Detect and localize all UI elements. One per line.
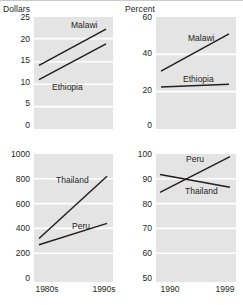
y-tick-label: 90 bbox=[143, 175, 152, 184]
chart-panel-bottom-right: 100 90 80 70 60 50 Peru bbox=[121, 152, 243, 305]
chart-panel-bottom-left: 1000 800 600 400 200 0 Th bbox=[0, 152, 120, 305]
line-chart-bottom-right bbox=[156, 154, 236, 282]
y-tick-label: 800 bbox=[16, 175, 30, 184]
x-tick-label: 1999 bbox=[216, 284, 235, 294]
chart-panel-top-right: Percent 60 40 20 0 Malawi bbox=[121, 4, 243, 150]
y-tick-label: 0 bbox=[25, 274, 30, 283]
plot-wrapper-top-left: 25 20 15 10 5 0 bbox=[0, 17, 120, 129]
y-tick-label: 200 bbox=[16, 249, 30, 258]
y-tick-label: 0 bbox=[147, 121, 152, 130]
plot-wrapper-bottom-left: 1000 800 600 400 200 0 Th bbox=[0, 154, 120, 282]
y-axis-top-right: 60 40 20 0 bbox=[121, 17, 152, 129]
y-tick-label: 20 bbox=[143, 86, 152, 95]
chart-panel-top-left: Dollars 25 20 15 10 5 0 bbox=[0, 4, 120, 150]
y-tick-label: 40 bbox=[143, 49, 152, 58]
x-axis-bottom-left: 1980s 1990s bbox=[34, 284, 113, 296]
small-multiples-grid: Dollars 25 20 15 10 5 0 bbox=[0, 0, 243, 305]
y-tick-label: 80 bbox=[143, 200, 152, 209]
series-label-peru: Peru bbox=[72, 222, 90, 231]
y-tick-label: 600 bbox=[16, 200, 30, 209]
plot-wrapper-top-right: 60 40 20 0 Malawi Ethiopia bbox=[121, 17, 243, 129]
y-tick-label: 100 bbox=[138, 150, 152, 159]
plot-wrapper-bottom-right: 100 90 80 70 60 50 Peru bbox=[121, 154, 243, 282]
line-chart-top-left bbox=[34, 17, 113, 129]
x-axis-bottom-right: 1990 1999 bbox=[156, 284, 236, 296]
series-label-thailand: Thailand bbox=[185, 187, 218, 196]
x-tick-label: 1990s bbox=[92, 284, 115, 294]
y-tick-label: 10 bbox=[21, 78, 30, 87]
series-label-malawi: Malawi bbox=[71, 21, 97, 30]
series-label-ethiopia: Ethiopia bbox=[183, 75, 214, 84]
y-tick-label: 5 bbox=[25, 99, 30, 108]
y-axis-bottom-left: 1000 800 600 400 200 0 bbox=[0, 154, 30, 282]
y-tick-label: 70 bbox=[143, 224, 152, 233]
y-tick-label: 20 bbox=[21, 35, 30, 44]
y-tick-label: 60 bbox=[143, 249, 152, 258]
y-tick-label: 1000 bbox=[11, 150, 30, 159]
y-tick-label: 400 bbox=[16, 224, 30, 233]
y-axis-top-left: 25 20 15 10 5 0 bbox=[0, 17, 30, 129]
y-tick-label: 50 bbox=[143, 274, 152, 283]
plot-area-top-left bbox=[34, 17, 113, 129]
series-label-thailand: Thailand bbox=[56, 176, 89, 185]
series-label-peru: Peru bbox=[186, 155, 204, 164]
y-tick-label: 60 bbox=[143, 13, 152, 22]
line-chart-bottom-left bbox=[34, 154, 113, 282]
x-tick-label: 1980s bbox=[35, 284, 58, 294]
y-tick-label: 15 bbox=[21, 56, 30, 65]
plot-area-bottom-right bbox=[156, 154, 236, 282]
series-label-malawi: Malawi bbox=[188, 34, 214, 43]
y-tick-label: 0 bbox=[25, 121, 30, 130]
y-tick-label: 25 bbox=[21, 13, 30, 22]
x-tick-label: 1990 bbox=[161, 284, 180, 294]
y-axis-bottom-right: 100 90 80 70 60 50 bbox=[121, 154, 152, 282]
plot-area-bottom-left bbox=[34, 154, 113, 282]
series-label-ethiopia: Ethiopia bbox=[52, 83, 83, 92]
